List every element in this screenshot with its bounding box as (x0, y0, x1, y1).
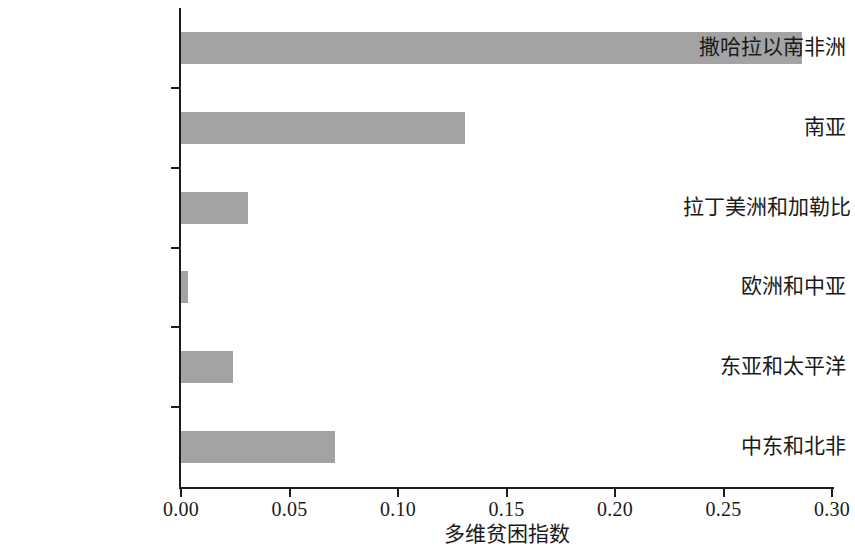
plot-area (181, 8, 832, 487)
bar[interactable] (181, 271, 188, 303)
x-axis-tick (180, 489, 182, 497)
x-axis-tick (614, 489, 616, 497)
y-axis-category-label: 中东和北非 (683, 436, 855, 457)
x-axis-tick (723, 489, 725, 497)
y-axis-category-label: 东亚和太平洋 (683, 356, 855, 377)
x-axis-tick (289, 489, 291, 497)
bar[interactable] (181, 112, 465, 144)
x-axis-tick-label: 0.15 (462, 498, 552, 521)
x-axis-tick (831, 489, 833, 497)
bar[interactable] (181, 192, 248, 224)
x-axis-tick-label: 0.05 (245, 498, 335, 521)
y-axis-category-label: 南亚 (683, 117, 855, 138)
bar[interactable] (181, 351, 233, 383)
y-axis-tick (171, 247, 180, 249)
y-axis-tick (171, 406, 180, 408)
y-axis-tick (171, 167, 180, 169)
x-axis-tick-label: 0.10 (353, 498, 443, 521)
y-axis-tick (171, 87, 180, 89)
x-axis-tick-label: 0.20 (570, 498, 660, 521)
x-axis-tick-label: 0.30 (787, 498, 855, 521)
bar[interactable] (181, 431, 335, 463)
x-axis-tick-label: 0.25 (679, 498, 769, 521)
y-axis-category-label: 撒哈拉以南非洲 (683, 37, 855, 58)
x-axis-tick (506, 489, 508, 497)
x-axis-title: 多维贫困指数 (181, 524, 832, 545)
y-axis-category-label: 拉丁美洲和加勒比 (683, 197, 855, 218)
y-axis-category-label: 欧洲和中亚 (683, 276, 855, 297)
x-axis-tick-label: 0.00 (136, 498, 226, 521)
x-axis-tick (397, 489, 399, 497)
y-axis-tick (171, 326, 180, 328)
bar-chart-figure: 0.000.050.100.150.200.250.30 多维贫困指数 撒哈拉以… (0, 0, 855, 551)
